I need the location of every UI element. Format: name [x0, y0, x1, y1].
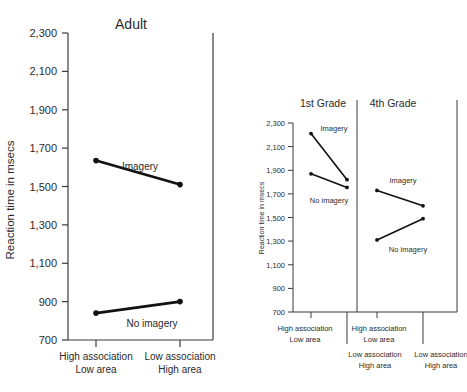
adult-xlabel-left-line1: High association: [59, 351, 132, 362]
adult-ytick-label-1300: 1,300: [29, 219, 57, 231]
grade-first-imagery-point-2: [345, 178, 349, 182]
grade-fourth-imagery-point-1: [375, 189, 379, 193]
grade-fourth-imagery-label: Imagery: [389, 176, 416, 185]
grade-chart: 1st Grade 4th Grade Reaction time in mse…: [245, 0, 467, 392]
grade-first-imagery-line: [311, 134, 347, 180]
grade-ytick-label-2100: 2,100: [266, 143, 285, 152]
grade-ytick-label-1700: 1,700: [266, 190, 285, 199]
adult-series-no-imagery-point-2: [177, 299, 183, 305]
adult-series-no-imagery-line: [96, 302, 180, 314]
grade-ytick-label-1100: 1,100: [266, 261, 285, 270]
adult-ytick-label-1500: 1,500: [29, 181, 57, 193]
grade-ytick-label-1900: 1,900: [266, 166, 285, 175]
adult-series-imagery-point-2: [177, 182, 183, 188]
grade-first-imagery-label: Imagery: [320, 124, 347, 133]
grade-first-xlabel-left-line2: Low area: [290, 335, 322, 344]
adult-chart: Adult Reaction time in msecs 2,300 2,100…: [0, 0, 245, 392]
grade-chart-title-first: 1st Grade: [300, 97, 346, 109]
grade-first-xlabel-left-line1: High association: [277, 324, 332, 333]
adult-xlabel-right-line1: Low association: [144, 351, 215, 362]
grade-fourth-xlabel-left-line1: High association: [351, 324, 406, 333]
grade-first-imagery-point-1: [309, 132, 313, 136]
grade-fourth-xlabel-right-line1: Low association: [414, 350, 467, 359]
grade-first-no-imagery-point-2: [345, 186, 349, 190]
adult-series-imagery-label: Imagery: [122, 161, 158, 172]
grade-first-xlabel-right-line2: High area: [359, 361, 392, 370]
adult-y-axis-title: Reaction time in msecs: [4, 140, 16, 259]
adult-series-no-imagery-label: No imagery: [126, 318, 177, 329]
grade-fourth-no-imagery-point-2: [421, 217, 425, 221]
grade-fourth-xlabel-right-line2: High area: [425, 361, 458, 370]
grade-fourth-xlabel-left-line2: Low area: [364, 335, 396, 344]
adult-ytick-label-900: 900: [39, 296, 57, 308]
adult-series-imagery-point-1: [93, 158, 99, 164]
grade-y-axis-title: Reaction time in msecs: [258, 181, 265, 254]
grade-fourth-imagery-line: [377, 190, 423, 205]
figure-container: Adult Reaction time in msecs 2,300 2,100…: [0, 0, 467, 392]
adult-series-no-imagery-point-1: [93, 310, 99, 316]
grade-ytick-label-1300: 1,300: [266, 237, 285, 246]
adult-ytick-label-700: 700: [39, 334, 57, 346]
adult-ytick-label-1700: 1,700: [29, 142, 57, 154]
adult-xlabel-right-line2: High area: [158, 364, 202, 375]
grade-ytick-label-900: 900: [272, 284, 285, 293]
grade-chart-title-fourth: 4th Grade: [370, 97, 417, 109]
grade-ytick-label-1500: 1,500: [266, 214, 285, 223]
grade-first-no-imagery-line: [311, 174, 347, 188]
grade-first-no-imagery-label: No imagery: [310, 196, 349, 205]
adult-ytick-label-1100: 1,100: [29, 257, 57, 269]
adult-xlabel-left-line2: Low area: [75, 364, 117, 375]
grade-fourth-no-imagery-point-1: [375, 238, 379, 242]
grade-fourth-no-imagery-line: [377, 219, 423, 240]
grade-fourth-no-imagery-label: No imagery: [389, 245, 428, 254]
grade-first-no-imagery-point-1: [309, 172, 313, 176]
grade-first-xlabel-right-line1: Low association: [348, 350, 401, 359]
adult-chart-title: Adult: [115, 16, 147, 32]
adult-ytick-label-2100: 2,100: [29, 65, 57, 77]
grade-fourth-imagery-point-2: [421, 204, 425, 208]
grade-ytick-label-700: 700: [272, 308, 285, 317]
adult-ytick-label-2300: 2,300: [29, 27, 57, 39]
grade-ytick-label-2300: 2,300: [266, 119, 285, 128]
adult-ytick-label-1900: 1,900: [29, 104, 57, 116]
